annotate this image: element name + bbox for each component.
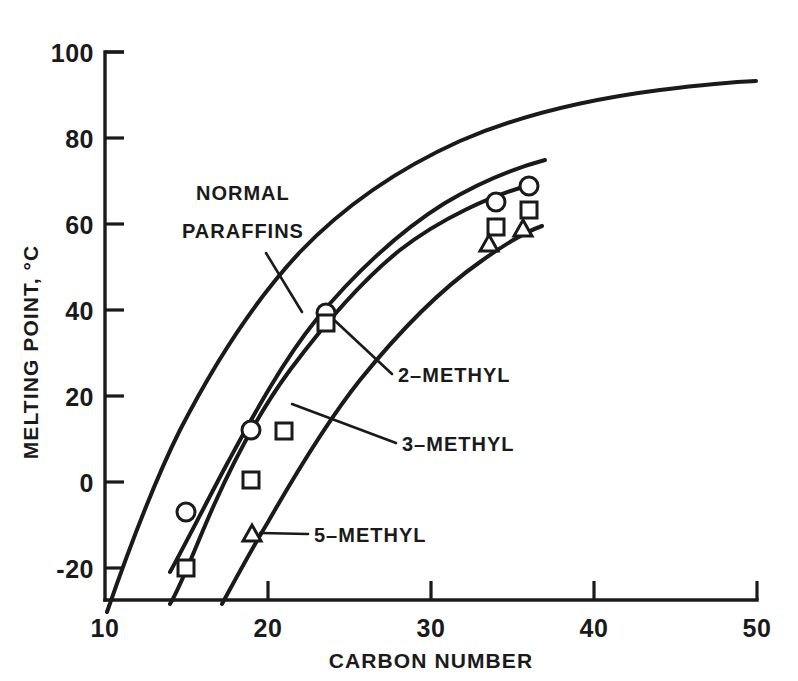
x-tick-label-20: 20 <box>254 614 283 642</box>
melting-point-chart: 100 80 60 40 20 0 -20 10 20 30 40 50 CAR… <box>0 0 798 681</box>
x-tick-label-10: 10 <box>91 614 120 642</box>
y-axis-title: MELTING POINT, °C <box>19 245 42 460</box>
y-tick-label-100: 100 <box>51 39 94 67</box>
data-point-triangle <box>243 525 261 541</box>
y-tick-labels: 100 80 60 40 20 0 -20 <box>51 39 94 583</box>
leader-5-methyl <box>260 533 308 534</box>
data-point-circle <box>177 503 195 521</box>
data-point-square <box>243 472 259 488</box>
series-label-2-methyl: 2–METHYL <box>398 364 510 386</box>
y-tick-label-40: 40 <box>65 297 94 325</box>
leader-3-methyl <box>292 404 396 443</box>
x-tick-marks <box>268 581 594 600</box>
x-axis-title: CARBON NUMBER <box>329 649 533 672</box>
y-tick-marks <box>105 52 124 568</box>
x-tick-label-30: 30 <box>417 614 446 642</box>
series-label-5-methyl: 5–METHYL <box>314 524 426 546</box>
y-tick-label-neg20: -20 <box>56 555 94 583</box>
y-tick-label-0: 0 <box>80 469 94 497</box>
data-point-square <box>488 219 504 235</box>
annotation-leader-lines <box>260 253 396 534</box>
curve-normal-paraffins <box>107 81 756 612</box>
chart-figure: 100 80 60 40 20 0 -20 10 20 30 40 50 CAR… <box>0 0 798 681</box>
data-point-circle <box>242 421 260 439</box>
axis-group <box>105 52 757 600</box>
data-point-square <box>318 315 334 331</box>
data-point-circle <box>487 193 505 211</box>
series-label-normal-paraffins-line2: PARAFFINS <box>182 220 304 242</box>
x-tick-labels: 10 20 30 40 50 <box>91 614 772 642</box>
curve-5-methyl <box>222 226 542 604</box>
series-label-3-methyl: 3–METHYL <box>402 433 514 455</box>
data-point-square <box>178 560 194 576</box>
series-label-normal-paraffins-line1: NORMAL <box>196 182 290 204</box>
x-tick-label-50: 50 <box>743 614 772 642</box>
leader-2-methyl <box>332 318 392 374</box>
data-point-square <box>521 202 537 218</box>
data-point-square <box>276 423 292 439</box>
y-tick-label-80: 80 <box>65 125 94 153</box>
data-point-triangle <box>514 220 532 236</box>
y-tick-label-60: 60 <box>65 211 94 239</box>
data-point-triangle <box>480 235 498 251</box>
x-tick-label-40: 40 <box>580 614 609 642</box>
data-point-circle <box>520 177 538 195</box>
y-tick-label-20: 20 <box>65 383 94 411</box>
